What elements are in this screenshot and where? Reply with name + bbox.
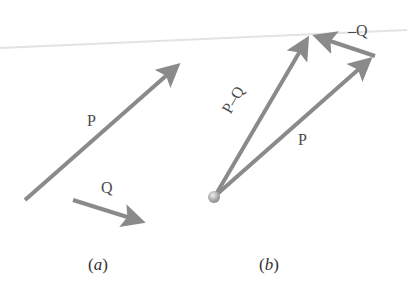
origin-point bbox=[208, 191, 220, 203]
label-q-a: Q bbox=[101, 180, 113, 196]
vector-q-arrow bbox=[73, 200, 140, 221]
vector-p-minus-q-arrow bbox=[215, 41, 306, 196]
vector-subtraction-figure: P Q P P–Q –Q (a) (b) bbox=[0, 0, 407, 287]
vector-p-arrow-b bbox=[215, 61, 368, 196]
label-p-a: P bbox=[87, 113, 96, 129]
label-p-b: P bbox=[298, 132, 307, 148]
panel-b bbox=[208, 37, 375, 203]
caption-b-text: b bbox=[265, 255, 274, 274]
vector-neg-q-arrow bbox=[318, 37, 375, 56]
panel-a bbox=[25, 67, 176, 221]
caption-b: (b) bbox=[259, 256, 279, 273]
caption-a-text: a bbox=[94, 255, 103, 274]
label-neg-q: –Q bbox=[348, 23, 368, 39]
caption-a: (a) bbox=[88, 256, 108, 273]
diagram-canvas bbox=[0, 0, 407, 287]
